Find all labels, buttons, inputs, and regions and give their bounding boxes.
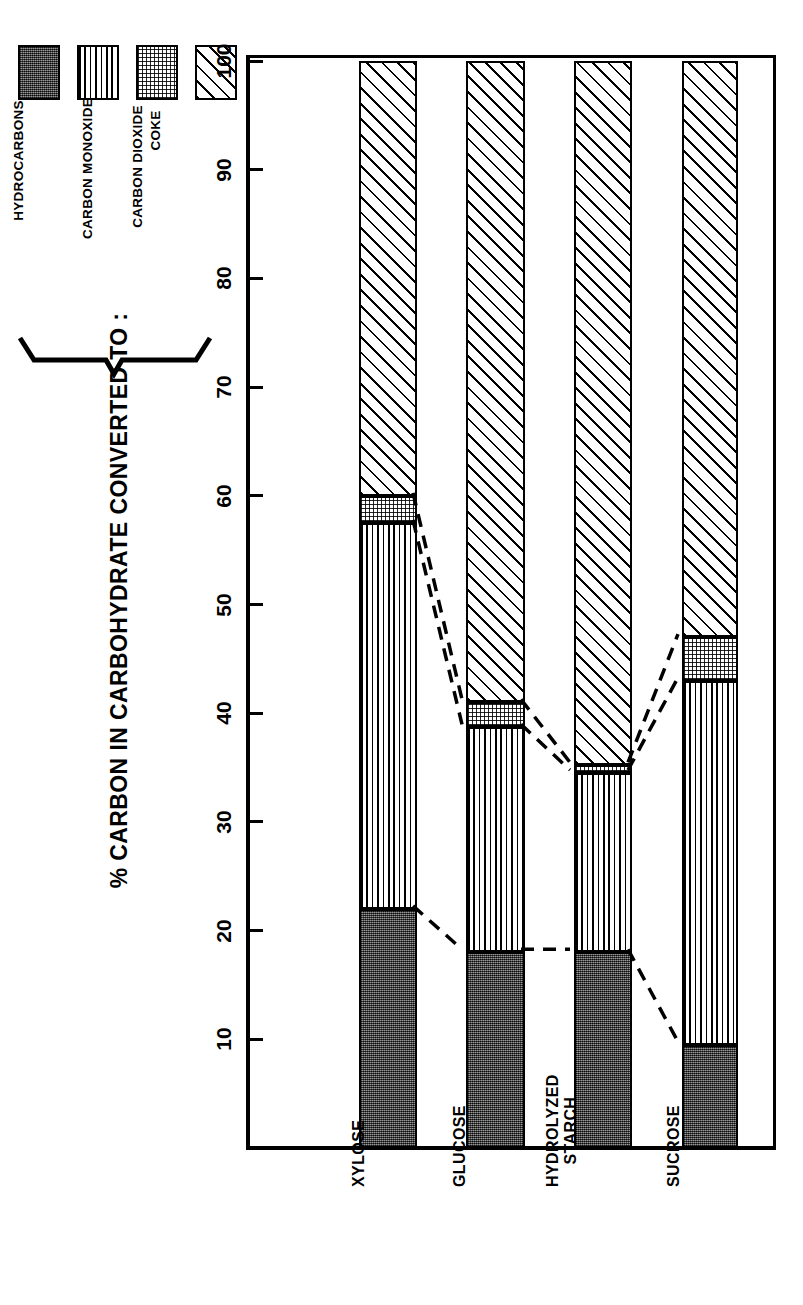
legend-swatch-carbon-dioxide <box>136 45 178 100</box>
y-axis-tick <box>250 603 263 606</box>
bar-segment-coke <box>682 61 738 637</box>
legend-item-carbon-dioxide: CARBON DIOXIDE <box>136 45 178 100</box>
y-axis-tick-label: 90 <box>204 160 244 180</box>
category-label-hydrolyzed-starch: HYDROLYZEDSTARCH <box>588 1163 612 1305</box>
legend-item-carbon-monoxide: CARBON MONOXIDE <box>77 45 119 100</box>
y-axis-tick <box>250 1038 263 1041</box>
y-axis-tick <box>250 820 263 823</box>
y-axis-tick-label: 70 <box>204 377 244 397</box>
bar-segment-coke <box>359 61 417 496</box>
category-label-xylose: XYLOSE <box>372 1163 396 1305</box>
bar-segment-carbon-monoxide <box>466 727 525 952</box>
bar-segment-hydrocarbons <box>682 1045 738 1148</box>
legend-brace-icon <box>10 330 220 410</box>
bar-segment-carbon-monoxide <box>359 523 417 909</box>
y-axis-tick-label: 30 <box>204 812 244 832</box>
y-axis-tick-label: 40 <box>204 703 244 723</box>
y-axis-tick <box>250 168 263 171</box>
bar-segment-coke <box>574 61 632 765</box>
bar-segment-carbon-dioxide <box>682 637 738 680</box>
y-axis-tick <box>250 386 263 389</box>
legend-swatch-carbon-monoxide <box>77 45 119 100</box>
y-axis-tick-label: 100 <box>204 51 244 71</box>
y-axis-tick-label: 20 <box>204 921 244 941</box>
legend-item-hydrocarbons: HYDROCARBONS <box>18 45 60 100</box>
bar-segment-carbon-dioxide <box>466 702 525 727</box>
category-label-sucrose: SUCROSE <box>694 1163 718 1305</box>
y-axis-tick <box>250 929 263 932</box>
y-axis-tick <box>250 60 263 63</box>
bar-hydrolyzed-starch <box>574 58 632 1153</box>
bar-segment-coke <box>466 61 525 702</box>
bar-sucrose <box>682 58 738 1153</box>
legend-swatch-hydrocarbons <box>18 45 60 100</box>
plot-inner: 102030405060708090100 <box>250 58 773 1146</box>
y-axis-tick-label: 60 <box>204 486 244 506</box>
bar-segment-carbon-monoxide <box>682 681 738 1045</box>
y-axis-tick-label: 80 <box>204 268 244 288</box>
bar-segment-carbon-dioxide <box>359 496 417 523</box>
y-axis-tick <box>250 712 263 715</box>
y-axis-tick <box>250 277 263 280</box>
bar-segment-hydrocarbons <box>466 952 525 1148</box>
bar-xylose <box>359 58 417 1153</box>
bar-segment-carbon-dioxide <box>574 765 632 773</box>
bar-glucose <box>466 58 525 1153</box>
bar-segment-hydrocarbons <box>359 909 417 1148</box>
y-axis-tick-label: 10 <box>204 1029 244 1049</box>
y-axis-tick <box>250 494 263 497</box>
category-label-glucose: GLUCOSE <box>480 1163 504 1305</box>
bar-segment-carbon-monoxide <box>574 773 632 952</box>
bar-segment-hydrocarbons <box>574 952 632 1148</box>
chart-figure: % CARBON IN CARBOHYDRATE CONVERTED TO : … <box>0 0 803 1305</box>
plot-area: 102030405060708090100 <box>246 55 776 1150</box>
y-axis-tick-label: 50 <box>204 595 244 615</box>
